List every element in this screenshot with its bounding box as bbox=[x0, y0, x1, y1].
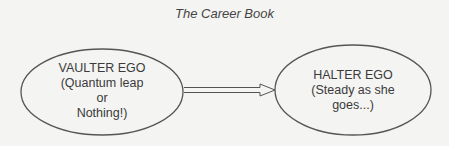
vaulter-line-1: VAULTER EGO bbox=[52, 61, 152, 76]
vaulter-line-2: (Quantum leap bbox=[52, 76, 152, 91]
halter-line-1: HALTER EGO bbox=[303, 68, 403, 83]
halter-line-3: goes...) bbox=[303, 98, 403, 113]
vaulter-ego-label: VAULTER EGO (Quantum leap or Nothing!) bbox=[52, 61, 152, 121]
vaulter-line-4: Nothing!) bbox=[52, 106, 152, 121]
halter-line-2: (Steady as she bbox=[303, 83, 403, 98]
vaulter-line-3: or bbox=[52, 91, 152, 106]
halter-ego-label: HALTER EGO (Steady as she goes...) bbox=[303, 68, 403, 113]
arrow-icon bbox=[184, 84, 275, 96]
